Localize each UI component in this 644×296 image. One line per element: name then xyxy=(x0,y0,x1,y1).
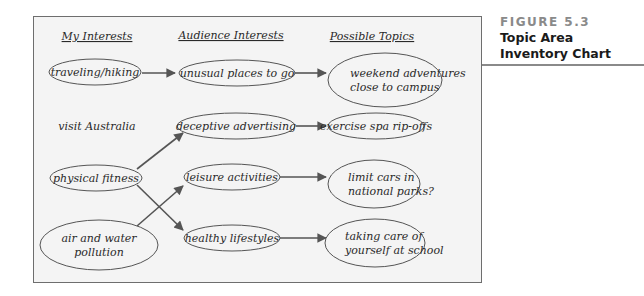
node-healthy-lifestyles: healthy lifestyles xyxy=(184,225,280,251)
column-heading-possible-topics: Possible Topics xyxy=(329,30,415,43)
node-taking-care: taking care of yourself at school xyxy=(325,219,444,267)
caption-rule xyxy=(482,64,644,66)
svg-text:air and water: air and water xyxy=(61,232,137,245)
figure-caption: FIGURE 5.3 Topic Area Inventory Chart xyxy=(500,14,611,62)
svg-text:weekend adventures: weekend adventures xyxy=(350,67,466,80)
node-leisure-activities: leisure activities xyxy=(184,164,280,190)
svg-text:close to campus: close to campus xyxy=(350,81,440,94)
svg-text:limit cars in: limit cars in xyxy=(348,171,415,184)
svg-text:pollution: pollution xyxy=(74,246,123,259)
svg-text:unusual places to go: unusual places to go xyxy=(180,67,295,80)
svg-text:leisure activities: leisure activities xyxy=(186,171,278,184)
node-physical-fitness: physical fitness xyxy=(50,165,142,191)
column-heading-audience-interests: Audience Interests xyxy=(177,29,284,42)
node-air-water-pollution: air and water pollution xyxy=(40,220,158,270)
node-deceptive-advertising: deceptive advertising xyxy=(176,113,296,139)
svg-text:exercise spa rip-offs: exercise spa rip-offs xyxy=(320,120,433,133)
node-visit-australia: visit Australia xyxy=(58,120,135,133)
svg-text:yourself at school: yourself at school xyxy=(344,244,444,257)
svg-text:taking care of: taking care of xyxy=(345,230,424,243)
svg-text:traveling/hiking: traveling/hiking xyxy=(51,66,140,79)
node-traveling-hiking: traveling/hiking xyxy=(49,59,141,85)
figure-number: FIGURE 5.3 xyxy=(500,14,611,30)
svg-text:national parks?: national parks? xyxy=(348,185,434,198)
node-unusual-places: unusual places to go xyxy=(179,60,295,86)
node-weekend-adventures: weekend adventures close to campus xyxy=(328,53,466,107)
node-limit-cars: limit cars in national parks? xyxy=(328,160,434,208)
arrow-fitness-to-deceptive xyxy=(137,133,183,169)
svg-text:physical fitness: physical fitness xyxy=(53,172,139,185)
figure-title-line2: Inventory Chart xyxy=(500,46,611,62)
column-heading-my-interests: My Interests xyxy=(61,30,133,43)
figure-title-line1: Topic Area xyxy=(500,30,611,46)
edges xyxy=(137,73,326,238)
node-exercise-spa: exercise spa rip-offs xyxy=(320,113,433,139)
svg-text:deceptive advertising: deceptive advertising xyxy=(176,120,296,133)
svg-text:visit Australia: visit Australia xyxy=(58,120,135,133)
svg-text:healthy lifestyles: healthy lifestyles xyxy=(185,232,280,245)
